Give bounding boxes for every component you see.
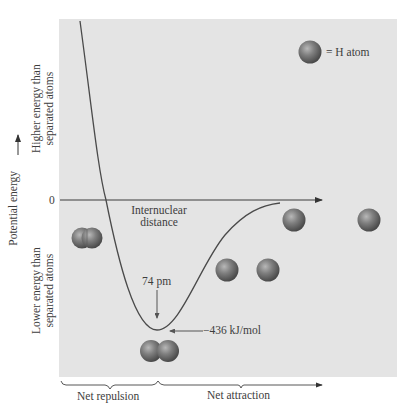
- net-repulsion-label: Net repulsion: [77, 390, 139, 402]
- bond-length-label: 74 pm: [142, 275, 171, 287]
- bonded-h2-molecule-icon: [140, 340, 179, 362]
- lower-energy-line2: separated atoms: [43, 236, 56, 346]
- separated-h-atom-icon: [358, 209, 381, 232]
- bond-energy-label: −436 kJ/mol: [203, 324, 261, 336]
- potential-energy-curve: [80, 21, 280, 330]
- compressed-h2-molecule-icon: [72, 228, 103, 249]
- lower-energy-label: Lower energy than separated atoms: [30, 236, 55, 346]
- legend-h-atom-icon: [299, 41, 322, 64]
- higher-energy-line2: separated atoms: [43, 54, 56, 164]
- lower-energy-line1: Lower energy than: [30, 236, 43, 346]
- zero-energy-label: 0: [49, 194, 55, 206]
- energy-diagram-graphics: [0, 0, 407, 406]
- x-axis-label-line1: Internuclear: [124, 204, 194, 216]
- higher-energy-label: Higher energy than separated atoms: [30, 54, 55, 164]
- approaching-h-atom-icon: [257, 259, 280, 282]
- x-axis-label: Internuclear distance: [124, 204, 194, 228]
- higher-energy-line1: Higher energy than: [30, 54, 43, 164]
- net-attraction-brace: [158, 381, 322, 388]
- net-repulsion-brace: [61, 381, 158, 389]
- approaching-h-atom-icon: [216, 259, 239, 282]
- x-axis-label-line2: distance: [124, 216, 194, 228]
- separated-h-atom-icon: [283, 209, 306, 232]
- legend-label: = H atom: [326, 46, 370, 58]
- net-attraction-label: Net attraction: [207, 389, 270, 401]
- y-axis-label: Potential energy: [7, 153, 20, 263]
